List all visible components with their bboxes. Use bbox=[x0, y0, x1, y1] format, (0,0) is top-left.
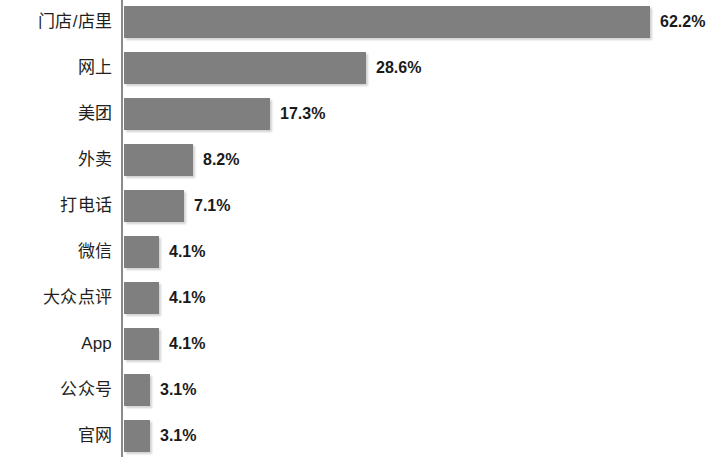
bar bbox=[124, 52, 366, 84]
category-label: 大众点评 bbox=[0, 282, 112, 314]
bar-row: 公众号3.1% bbox=[0, 374, 715, 420]
category-label: 网上 bbox=[0, 52, 112, 84]
value-label: 17.3% bbox=[280, 98, 325, 130]
value-label: 4.1% bbox=[169, 236, 205, 268]
value-label: 8.2% bbox=[203, 144, 239, 176]
value-label: 7.1% bbox=[194, 190, 230, 222]
bar-row: App4.1% bbox=[0, 328, 715, 374]
category-label: 官网 bbox=[0, 420, 112, 452]
bar bbox=[124, 144, 193, 176]
bar-row: 微信4.1% bbox=[0, 236, 715, 282]
category-label: 外卖 bbox=[0, 144, 112, 176]
bar bbox=[124, 236, 159, 268]
bar bbox=[124, 420, 150, 452]
bar bbox=[124, 98, 270, 130]
category-label: 美团 bbox=[0, 98, 112, 130]
value-label: 4.1% bbox=[169, 282, 205, 314]
bar-row: 网上28.6% bbox=[0, 52, 715, 98]
value-label: 3.1% bbox=[160, 374, 196, 406]
bar-row: 官网3.1% bbox=[0, 420, 715, 457]
bar bbox=[124, 374, 150, 406]
bar-chart: 门店/店里62.2%网上28.6%美团17.3%外卖8.2%打电话7.1%微信4… bbox=[0, 0, 715, 457]
bar-row: 美团17.3% bbox=[0, 98, 715, 144]
bar bbox=[124, 6, 650, 38]
plot-area: 门店/店里62.2%网上28.6%美团17.3%外卖8.2%打电话7.1%微信4… bbox=[0, 0, 715, 457]
bar-row: 打电话7.1% bbox=[0, 190, 715, 236]
category-label: 公众号 bbox=[0, 374, 112, 406]
category-label: 微信 bbox=[0, 236, 112, 268]
value-label: 4.1% bbox=[169, 328, 205, 360]
category-label: App bbox=[0, 328, 112, 360]
bar bbox=[124, 282, 159, 314]
category-label: 门店/店里 bbox=[0, 6, 112, 38]
bar-row: 大众点评4.1% bbox=[0, 282, 715, 328]
value-label: 3.1% bbox=[160, 420, 196, 452]
bar-row: 外卖8.2% bbox=[0, 144, 715, 190]
value-label: 28.6% bbox=[376, 52, 421, 84]
bar-row: 门店/店里62.2% bbox=[0, 6, 715, 52]
bar bbox=[124, 328, 159, 360]
bar bbox=[124, 190, 184, 222]
value-label: 62.2% bbox=[660, 6, 705, 38]
category-label: 打电话 bbox=[0, 190, 112, 222]
